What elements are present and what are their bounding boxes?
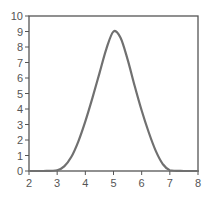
- line-chart: 012345678910 2345678: [0, 0, 209, 197]
- x-tick-label: 7: [167, 177, 173, 189]
- y-tick-label: 10: [11, 10, 23, 22]
- y-tick-label: 9: [17, 26, 23, 38]
- x-tick-label: 3: [54, 177, 60, 189]
- y-tick-label: 5: [17, 88, 23, 100]
- data-series-line: [29, 31, 198, 171]
- y-tick-label: 0: [17, 165, 23, 177]
- y-tick-label: 1: [17, 150, 23, 162]
- x-tick-label: 8: [195, 177, 201, 189]
- y-tick-label: 7: [17, 57, 23, 69]
- y-tick-label: 6: [17, 72, 23, 84]
- y-tick-label: 8: [17, 41, 23, 53]
- x-tick-label: 6: [139, 177, 145, 189]
- x-tick-label: 5: [110, 177, 116, 189]
- plot-frame: [29, 16, 198, 171]
- x-tick-label: 2: [26, 177, 32, 189]
- plot-border: [29, 16, 198, 171]
- y-tick-label: 2: [17, 134, 23, 146]
- x-tick-label: 4: [82, 177, 88, 189]
- y-tick-label: 3: [17, 119, 23, 131]
- x-axis: 2345678: [26, 171, 201, 189]
- y-tick-label: 4: [17, 103, 23, 115]
- y-axis: 012345678910: [11, 10, 29, 177]
